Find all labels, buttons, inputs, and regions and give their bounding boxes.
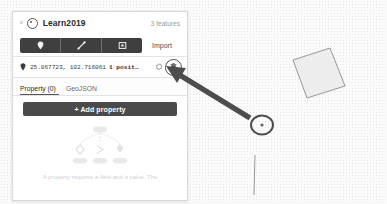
import-link[interactable]: Import	[152, 42, 172, 49]
polygon-feature[interactable]	[293, 48, 345, 98]
draw-tool-group	[20, 38, 142, 53]
draw-toolbar: Import	[13, 34, 187, 56]
add-property-button[interactable]: + Add property	[23, 102, 177, 116]
point-feature[interactable]	[260, 123, 263, 126]
brand-logo-icon	[27, 18, 38, 29]
project-title: Learn2019	[43, 18, 86, 28]
tab-property[interactable]: Property (0)	[20, 85, 59, 95]
property-tabs: Property (0) GeoJSON	[13, 78, 187, 95]
panel-header: ‹ Learn2019 3 features	[13, 12, 187, 34]
delete-feature-button[interactable]	[166, 60, 181, 75]
map-pin-icon	[20, 63, 26, 71]
line-icon	[77, 41, 86, 50]
polygon-icon	[118, 41, 127, 50]
draw-line-tool[interactable]	[61, 38, 102, 53]
empty-state-hint: A property requires a field and a value.…	[29, 174, 172, 182]
map-pin-icon	[37, 41, 44, 50]
line-feature[interactable]	[254, 155, 255, 195]
empty-state: A property requires a field and a value.…	[13, 126, 187, 182]
feature-count-label: 3 features	[151, 20, 180, 27]
feature-coordinates: 25.067723, 102.716061	[30, 64, 106, 71]
feature-row-actions	[155, 60, 181, 75]
feature-editor-panel: ‹ Learn2019 3 features	[12, 11, 188, 201]
draw-point-tool[interactable]	[20, 38, 61, 53]
draw-polygon-tool[interactable]	[102, 38, 142, 53]
empty-state-illustration	[69, 126, 131, 168]
annotation-highlight-ring	[165, 59, 182, 76]
gear-icon[interactable]	[155, 63, 163, 71]
feature-position-label: 1 posit…	[109, 64, 139, 71]
tab-geojson[interactable]: GeoJSON	[66, 85, 100, 95]
add-property-zone: + Add property	[13, 96, 187, 116]
selected-feature-row[interactable]: 25.067723, 102.716061 1 posit…	[13, 57, 187, 77]
back-chevron-icon[interactable]: ‹	[20, 19, 23, 27]
